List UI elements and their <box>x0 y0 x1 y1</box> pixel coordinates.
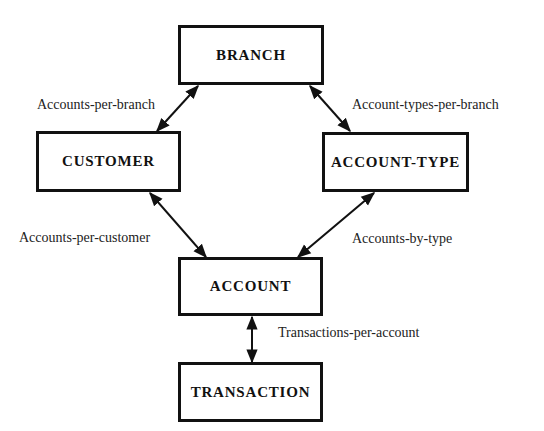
entity-transaction: TRANSACTION <box>178 362 323 422</box>
entity-branch-label: BRANCH <box>216 47 286 64</box>
link-customer-account <box>150 193 206 257</box>
rel-transactions-per-account: Transactions-per-account <box>278 325 420 341</box>
entity-account-label: ACCOUNT <box>210 278 291 295</box>
rel-account-types-per-branch: Account-types-per-branch <box>352 97 499 113</box>
entity-account-type: ACCOUNT-TYPE <box>322 132 469 192</box>
rel-accounts-by-type: Accounts-by-type <box>352 231 452 247</box>
entity-customer: CUSTOMER <box>36 131 181 192</box>
rel-accounts-per-branch: Accounts-per-branch <box>37 97 155 113</box>
rel-accounts-per-customer: Accounts-per-customer <box>19 230 150 246</box>
link-account-type-account <box>298 193 374 257</box>
entity-transaction-label: TRANSACTION <box>191 384 311 401</box>
entity-account-type-label: ACCOUNT-TYPE <box>331 154 460 171</box>
entity-account: ACCOUNT <box>178 257 323 316</box>
link-branch-account-type <box>310 86 350 131</box>
entity-customer-label: CUSTOMER <box>62 153 155 170</box>
link-branch-customer <box>157 86 198 131</box>
entity-branch: BRANCH <box>178 25 324 85</box>
er-diagram: BRANCH CUSTOMER ACCOUNT-TYPE ACCOUNT TRA… <box>0 0 544 431</box>
